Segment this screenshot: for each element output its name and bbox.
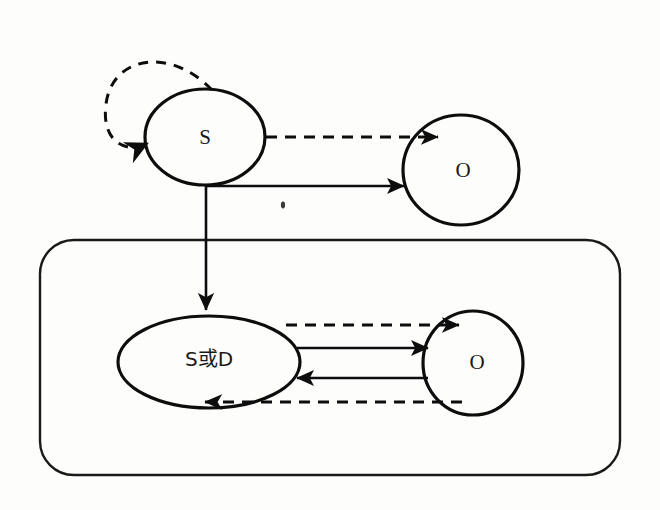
diagram-svg: O (arrowhead lands inside O) --> O (to l… <box>0 0 660 510</box>
node-o-bottom-label: O <box>469 350 484 374</box>
node-sd-bottom-label: S或D <box>185 347 233 371</box>
node-s-top-label: S <box>199 125 211 149</box>
group-container-box <box>40 240 620 475</box>
scan-speck <box>281 202 285 209</box>
diagram-canvas: O (arrowhead lands inside O) --> O (to l… <box>0 0 660 510</box>
node-o-top-label: O <box>455 158 470 182</box>
